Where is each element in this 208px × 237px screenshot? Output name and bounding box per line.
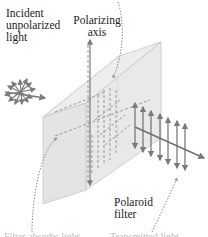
unpolarized-light-icon (5, 79, 45, 104)
incident-label-line-1: Incident (6, 7, 60, 19)
incident-label-line-2: unpolarized (6, 19, 60, 31)
polarization-diagram: Incident unpolarized light Polarizing ax… (0, 0, 208, 237)
polaroid-label-line-2: filter (114, 208, 153, 220)
right-caption-cut: Transmitted light... (110, 231, 206, 237)
incident-label-line-3: light (6, 31, 60, 43)
polarizing-label-line-1: Polarizing (70, 14, 124, 26)
left-caption-cut: Filter absorbs light... (4, 231, 84, 237)
incident-light-label: Incident unpolarized light (6, 7, 60, 43)
polarizing-axis-label: Polarizing axis (70, 14, 124, 38)
polarizing-label-line-2: axis (70, 26, 124, 38)
polaroid-filter-label: Polaroid filter (114, 196, 153, 220)
polaroid-label-line-1: Polaroid (114, 196, 153, 208)
